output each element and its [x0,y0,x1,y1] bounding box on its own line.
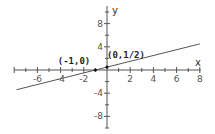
x-tick-label: -6 [33,74,42,84]
point-label-neg1-0: (-1,0) [58,56,91,66]
point-marker [94,68,97,71]
y-tick-label: -4 [94,88,103,98]
y-tick-label: 8 [97,19,103,29]
x-tick-label: 4 [151,74,157,84]
y-axis-label: y [112,5,118,16]
x-tick-label: 6 [174,74,180,84]
line-plot: -6-4-2246884-4-8xy (-1,0)(0,1/2) [0,0,215,134]
point-label-0-half: (0,1/2) [107,50,145,60]
point-marker [105,66,108,69]
x-tick-label: 2 [127,74,133,84]
x-tick-label: 8 [197,74,203,84]
y-tick-label: -8 [94,111,103,121]
x-axis-label: x [195,57,201,68]
x-tick-label: -2 [79,74,88,84]
y-tick-label: 4 [97,42,103,52]
